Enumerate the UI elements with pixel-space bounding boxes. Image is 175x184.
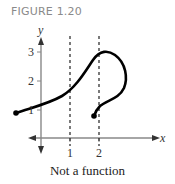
y-axis-arrow-down-icon xyxy=(38,146,44,154)
y-axis-label: y xyxy=(37,23,44,37)
x-axis xyxy=(28,135,160,142)
x-axis-arrow-right-icon xyxy=(152,135,160,141)
subcaption: Not a function xyxy=(0,163,175,179)
y-tick-2: 2 xyxy=(28,74,34,88)
y-tick-1: 1 xyxy=(28,103,34,117)
closed-endpoint-left xyxy=(13,110,19,116)
x-tick-2: 2 xyxy=(96,146,102,160)
y-tick-3: 3 xyxy=(28,45,34,59)
x-axis-label: x xyxy=(159,131,166,145)
x-tick-1: 1 xyxy=(67,146,73,160)
y-axis-arrow-up-icon xyxy=(38,37,44,45)
y-axis xyxy=(37,37,44,154)
x-axis-arrow-left-icon xyxy=(28,135,36,141)
closed-endpoint-right xyxy=(91,113,97,119)
graph: y x 3 2 1 1 2 xyxy=(0,0,175,184)
